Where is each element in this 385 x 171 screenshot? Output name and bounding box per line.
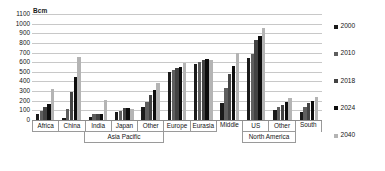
category-label: US [243, 121, 269, 132]
bar-group [217, 14, 243, 120]
category-label: Other [138, 121, 164, 132]
bar-chart: Bcm 110010009008007006005004003002001000… [0, 0, 385, 171]
legend-label: 2000 [341, 23, 356, 30]
y-axis-tick-label: 900 [0, 30, 30, 36]
bar-group [243, 14, 269, 120]
bar-group [164, 14, 190, 120]
legend-swatch-icon [334, 134, 338, 138]
y-axis-tick-label: 400 [0, 78, 30, 84]
bar [104, 100, 107, 120]
category-label: Europe [164, 121, 190, 132]
category-label-text: Middle [220, 122, 239, 129]
legend-label: 2040 [341, 132, 356, 139]
category-label: MiddleEast [217, 121, 243, 132]
bar [262, 28, 265, 121]
y-axis: 110010009008007006005004003002001000 [0, 14, 30, 120]
category-label-text: Other [143, 123, 159, 130]
category-label-text: Japan [116, 123, 133, 130]
bar-group [137, 14, 163, 120]
legend-item[interactable]: 2010 [334, 49, 382, 58]
region-label: Asia Pacific [84, 132, 164, 143]
category-label: SouthAmerica [296, 121, 322, 132]
region-label: North America [242, 132, 296, 143]
y-axis-tick-label: 300 [0, 88, 30, 94]
y-axis-tick-label: 600 [0, 59, 30, 65]
legend: 20002010201820242040 [334, 22, 382, 140]
category-label-text: Europe [167, 123, 188, 130]
category-label: Africa [32, 121, 59, 132]
bar [51, 89, 54, 120]
category-label-text: South [300, 122, 317, 129]
legend-swatch-icon [334, 25, 338, 29]
category-label: China [59, 121, 85, 132]
legend-item[interactable]: 2040 [334, 131, 382, 140]
y-axis-tick-label: 1100 [0, 11, 30, 17]
legend-item[interactable]: 2024 [334, 104, 382, 113]
y-axis-tick-label: 800 [0, 40, 30, 46]
category-label: Eurasia [191, 121, 217, 132]
legend-label: 2024 [341, 105, 356, 112]
bar-group [111, 14, 137, 120]
plot-area [32, 14, 322, 121]
category-axis: AfricaChinaIndiaJapanOtherEuropeEurasiaM… [32, 121, 322, 132]
legend-item[interactable]: 2000 [334, 22, 382, 31]
bar [130, 109, 133, 120]
y-axis-tick-label: 1000 [0, 20, 30, 26]
bar-group [58, 14, 84, 120]
legend-label: 2018 [341, 78, 356, 85]
region-spacer [32, 132, 84, 143]
bar-groups [32, 14, 322, 120]
y-axis-tick-label: 500 [0, 69, 30, 75]
category-label-text: China [64, 123, 81, 130]
legend-item[interactable]: 2018 [334, 77, 382, 86]
category-label: Other [269, 121, 295, 132]
category-label: Japan [112, 121, 138, 132]
bar [183, 63, 186, 120]
legend-label: 2010 [341, 50, 356, 57]
bar-group [269, 14, 295, 120]
category-label-text: Eurasia [192, 123, 214, 130]
category-label-text: Africa [37, 123, 53, 130]
y-axis-tick-label: 700 [0, 49, 30, 55]
category-label-text: Other [274, 123, 290, 130]
bar [156, 83, 159, 120]
region-axis: Asia PacificNorth America [32, 132, 322, 143]
bar-group [190, 14, 216, 120]
category-label-text: US [251, 123, 260, 130]
y-axis-tick-label: 100 [0, 107, 30, 113]
bar [77, 57, 80, 120]
bar [236, 53, 239, 120]
bar-group [85, 14, 111, 120]
bar [315, 97, 318, 120]
y-axis-tick-label: 200 [0, 98, 30, 104]
y-axis-tick-label: 0 [0, 117, 30, 123]
category-label: India [86, 121, 112, 132]
bar [288, 98, 291, 120]
region-spacer [296, 132, 322, 143]
region-spacer [164, 132, 242, 143]
legend-swatch-icon [334, 52, 338, 56]
legend-swatch-icon [334, 106, 338, 110]
legend-swatch-icon [334, 79, 338, 83]
y-axis-unit-label: Bcm [33, 7, 47, 14]
bar-group [32, 14, 58, 120]
bar [209, 60, 212, 120]
bar-group [296, 14, 322, 120]
category-label-text: India [91, 123, 105, 130]
